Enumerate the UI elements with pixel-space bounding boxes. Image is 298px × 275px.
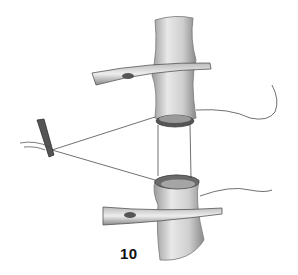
anastomosis-drawing	[0, 0, 298, 275]
needle-holder	[20, 119, 54, 157]
figure-number: 10	[120, 245, 138, 262]
